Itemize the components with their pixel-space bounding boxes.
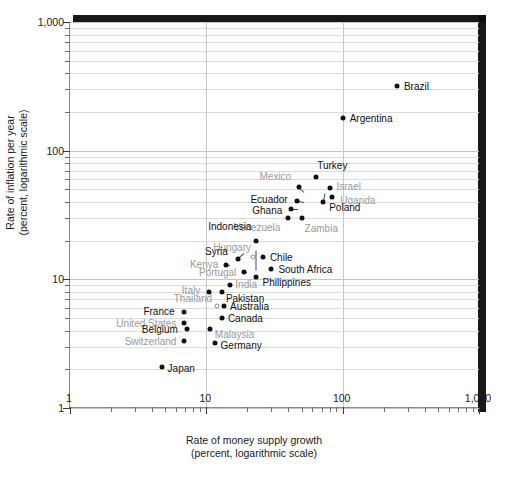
data-label-malaysia: Malaysia (215, 329, 254, 340)
x-axis-tick (322, 407, 323, 412)
data-label-brazil: Brazil (404, 80, 429, 91)
data-point-israel[interactable] (327, 186, 332, 191)
y-axis-tick (65, 42, 70, 43)
data-point-zambia[interactable] (299, 215, 304, 220)
data-label-ecuador: Ecuador (250, 193, 287, 204)
leader-line-indonesia (255, 250, 256, 270)
data-point-india[interactable] (228, 283, 233, 288)
data-label-indonesia: Indonesia (208, 220, 251, 231)
data-label-portugal: Portugal (199, 266, 236, 277)
y-axis-tick (65, 179, 70, 180)
data-point-germany[interactable] (212, 341, 217, 346)
data-label-canada: Canada (228, 313, 263, 324)
data-label-ghana: Ghana (252, 205, 282, 216)
data-point-united-states[interactable] (182, 320, 187, 325)
data-point-argentina[interactable] (340, 115, 345, 120)
y-axis-tick (65, 292, 70, 293)
gridline-horizontal (70, 292, 479, 293)
plot-area: BrazilArgentinaTurkeyIsraelUgandaMexicoE… (69, 22, 478, 408)
x-tick-label: 1 (66, 392, 72, 404)
x-axis-tick (479, 407, 480, 414)
data-point-malaysia[interactable] (207, 327, 212, 332)
x-axis-tick (193, 407, 194, 412)
data-label-india: India (235, 279, 257, 290)
data-point-pakistan[interactable] (219, 289, 224, 294)
gridline-horizontal (70, 408, 479, 409)
inflation-vs-money-growth-scatter-chart: BrazilArgentinaTurkeyIsraelUgandaMexicoE… (0, 0, 508, 478)
gridline-horizontal (70, 73, 479, 74)
gridline-horizontal (70, 189, 479, 190)
data-point-ecuador[interactable] (294, 198, 299, 203)
gridline-horizontal (70, 218, 479, 219)
data-point-australia[interactable] (222, 304, 227, 309)
x-axis-tick (330, 407, 331, 412)
data-point-portugal[interactable] (242, 269, 247, 274)
data-point-ghana[interactable] (289, 207, 294, 212)
x-axis-tick (165, 407, 166, 412)
gridline-vertical (206, 22, 207, 408)
data-point-chile[interactable] (260, 254, 265, 259)
data-point-brazil[interactable] (394, 83, 399, 88)
x-axis-tick (425, 407, 426, 412)
data-label-france: France (143, 305, 174, 316)
data-label-australia: Australia (230, 301, 269, 312)
data-label-mexico: Mexico (260, 171, 292, 182)
data-point-syria[interactable] (235, 256, 240, 261)
y-axis-tick (65, 35, 70, 36)
data-label-syria: Syria (205, 245, 228, 256)
data-point-japan[interactable] (159, 364, 164, 369)
gridline-horizontal (70, 42, 479, 43)
data-point-uganda[interactable] (330, 194, 335, 199)
data-point-turkey[interactable] (314, 174, 319, 179)
x-axis-tick (302, 407, 303, 412)
gridline-vertical (343, 22, 344, 408)
x-axis-tick (200, 407, 201, 412)
x-axis-title-line2: (percent, logarithmic scale) (0, 447, 508, 460)
data-label-turkey: Turkey (317, 159, 347, 170)
data-point-south-africa[interactable] (269, 267, 274, 272)
data-point-switzerland[interactable] (182, 339, 187, 344)
data-label-south-africa: South Africa (278, 264, 332, 275)
gridline-horizontal (70, 61, 479, 62)
data-point-france[interactable] (181, 309, 186, 314)
data-point-hungary[interactable] (251, 254, 256, 259)
y-axis-title-line1: Rate of inflation per year (4, 115, 16, 229)
y-axis-tick (65, 369, 70, 370)
y-axis-tick (65, 73, 70, 74)
data-point-poland[interactable] (321, 199, 326, 204)
x-axis-tick (458, 407, 459, 412)
data-point-thailand[interactable] (215, 304, 220, 309)
data-label-switzerland: Switzerland (125, 336, 177, 347)
y-axis-tick (65, 189, 70, 190)
x-axis-tick (343, 407, 344, 414)
data-label-chile: Chile (270, 251, 293, 262)
gridline-horizontal (70, 369, 479, 370)
x-axis-tick (408, 407, 409, 412)
y-tick-label: 10 (52, 273, 64, 285)
data-point-belgium[interactable] (184, 327, 189, 332)
data-point-mexico[interactable] (297, 185, 302, 190)
x-axis-tick (473, 407, 474, 412)
x-axis-tick (206, 407, 207, 414)
y-axis-tick (65, 61, 70, 62)
data-point-indonesia[interactable] (253, 238, 258, 243)
data-point-canada[interactable] (219, 316, 224, 321)
data-label-japan: Japan (168, 362, 195, 373)
gridline-horizontal (70, 51, 479, 52)
y-axis-tick (65, 157, 70, 158)
y-axis-tick (65, 331, 70, 332)
data-point-venezuela[interactable] (286, 215, 291, 220)
x-axis-tick (466, 407, 467, 412)
data-label-poland: Poland (329, 201, 360, 212)
y-tick-label: 1,000 (38, 16, 64, 28)
y-axis-tick (65, 285, 70, 286)
data-label-thailand: Thailand (174, 293, 212, 304)
gridline-horizontal (70, 308, 479, 309)
y-axis-tick (65, 28, 70, 29)
y-axis-tick (65, 112, 70, 113)
x-axis-tick (185, 407, 186, 412)
y-axis-tick (63, 22, 70, 23)
gridline-horizontal (70, 241, 479, 242)
data-label-argentina: Argentina (350, 112, 393, 123)
x-axis-tick (70, 407, 71, 414)
